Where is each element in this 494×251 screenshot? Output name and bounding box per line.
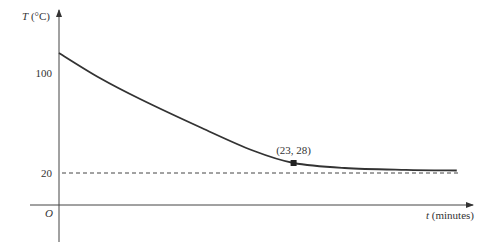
point-annotation: (23, 28) [276,144,311,157]
y-tick-20: 20 [41,167,53,179]
origin-label: O [45,207,53,219]
cooling-curve [59,53,457,171]
point-marker [291,160,297,166]
x-axis-label: t (minutes) [426,209,474,222]
y-axis-label: T (°C) [22,10,50,23]
cooling-chart: T (°C) 100 20 O (23, 28) t (minutes) [0,0,494,251]
y-tick-100: 100 [36,67,53,79]
